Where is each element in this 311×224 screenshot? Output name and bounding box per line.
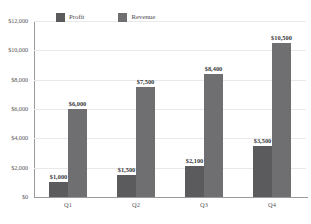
bar-group: $1,000$6,000	[34, 21, 102, 197]
y-axis-tick-label: $0	[0, 194, 31, 200]
bar-profit-q3[interactable]: $2,100	[185, 166, 204, 197]
gridline	[34, 197, 306, 198]
bar-revenue-q1[interactable]: $6,000	[68, 109, 87, 197]
bar-value-label: $3,500	[254, 138, 272, 144]
bar-profit-q1[interactable]: $1,000	[49, 182, 68, 197]
bar-profit-q2[interactable]: $1,500	[117, 175, 136, 197]
legend-swatch-icon	[56, 13, 65, 22]
bar-value-label: $1,500	[118, 167, 136, 173]
x-axis: Q1Q2Q3Q4	[34, 199, 306, 213]
bar-revenue-q3[interactable]: $8,400	[204, 74, 223, 197]
y-axis-tick-label: $12,000	[0, 18, 31, 24]
y-axis-tick-label: $10,000	[0, 47, 31, 53]
bar-value-label: $2,100	[186, 158, 204, 164]
legend-label: Revenue	[131, 14, 155, 21]
bar-revenue-q2[interactable]: $7,500	[136, 87, 155, 197]
bar-profit-q4[interactable]: $3,500	[253, 146, 272, 197]
y-axis-tick-label: $4,000	[0, 135, 31, 141]
legend-item-revenue[interactable]: Revenue	[118, 13, 155, 22]
bar-value-label: $8,400	[205, 66, 223, 72]
y-axis-tick-label: $8,000	[0, 77, 31, 83]
bar-group: $1,500$7,500	[102, 21, 170, 197]
bar-value-label: $7,500	[137, 79, 155, 85]
legend-item-profit[interactable]: Profit	[56, 13, 84, 22]
x-axis-tick-label: Q1	[64, 202, 72, 208]
chart-legend: ProfitRevenue	[56, 13, 155, 22]
bar-value-label: $6,000	[69, 101, 87, 107]
bar-value-label: $1,000	[50, 174, 68, 180]
bar-value-label: $10,500	[271, 35, 292, 41]
y-axis: $12,000$10,000$8,000$6,000$4,000$2,000$0	[0, 0, 31, 224]
legend-swatch-icon	[118, 13, 127, 22]
bar-group: $2,100$8,400	[170, 21, 238, 197]
bar-revenue-q4[interactable]: $10,500	[272, 43, 291, 197]
y-axis-tick-label: $6,000	[0, 106, 31, 112]
bar-chart: $12,000$10,000$8,000$6,000$4,000$2,000$0…	[0, 0, 311, 224]
y-axis-tick-label: $2,000	[0, 165, 31, 171]
x-axis-tick-label: Q3	[200, 202, 208, 208]
bar-group: $3,500$10,500	[238, 21, 306, 197]
plot-area: $1,000$6,000$1,500$7,500$2,100$8,400$3,5…	[34, 21, 306, 197]
x-axis-tick-label: Q2	[132, 202, 140, 208]
legend-label: Profit	[69, 14, 84, 21]
x-axis-tick-label: Q4	[268, 202, 276, 208]
